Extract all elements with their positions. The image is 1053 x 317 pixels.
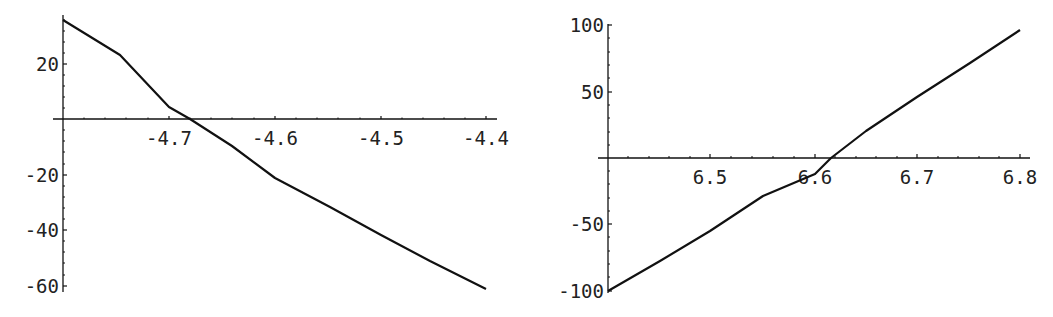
left-y-tick-label: 20	[36, 53, 59, 75]
right-x-tick-label: 6.8	[1003, 166, 1037, 188]
right-x-tick-label: 6.5	[693, 166, 727, 188]
left-x-tick-label: -4.7	[146, 127, 192, 149]
right-x-tick-label: 6.7	[900, 166, 934, 188]
right-plot: 6.5 6.6 6.7 6.8 100 50 -50 -100	[558, 14, 1037, 302]
left-plot: -4.7 -4.6 -4.5 -4.4 20 -20 -40 -60	[25, 15, 509, 297]
left-x-tick-label: -4.4	[463, 127, 509, 149]
right-y-tick-label: 100	[570, 14, 604, 36]
left-y-tick-label: -60	[25, 275, 59, 297]
left-x-tick-label: -4.6	[252, 127, 298, 149]
right-y-tick-label: -50	[570, 213, 604, 235]
right-x-tick-label: 6.6	[798, 166, 832, 188]
left-y-tick-label: -40	[25, 219, 59, 241]
right-y-tick-label: 50	[581, 81, 604, 103]
left-curve	[63, 20, 486, 289]
right-curve	[608, 30, 1020, 291]
left-y-tick-label: -20	[25, 164, 59, 186]
right-y-tick-label: -100	[558, 280, 604, 302]
plots-canvas: -4.7 -4.6 -4.5 -4.4 20 -20 -40 -60	[0, 0, 1053, 317]
left-x-tick-label: -4.5	[358, 127, 404, 149]
